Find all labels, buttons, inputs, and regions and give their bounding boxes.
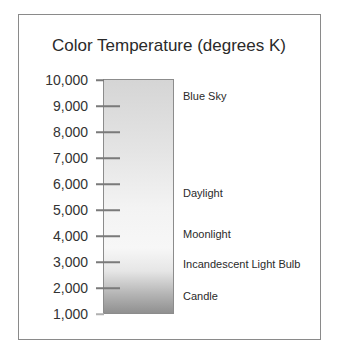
tick-mark-4000 xyxy=(96,235,120,237)
tick-mark-5000 xyxy=(96,209,120,211)
tick-mark-10000 xyxy=(96,79,104,81)
label-daylight: Daylight xyxy=(183,187,223,199)
tick-label-1000: 1,000 xyxy=(28,306,88,322)
chart-title: Color Temperature (degrees K) xyxy=(0,36,338,56)
tick-label-2000: 2,000 xyxy=(28,280,88,296)
tick-label-8000: 8,000 xyxy=(28,124,88,140)
tick-label-10000: 10,000 xyxy=(28,72,88,88)
label-moonlight: Moonlight xyxy=(183,228,231,240)
tick-label-6000: 6,000 xyxy=(28,176,88,192)
tick-label-5000: 5,000 xyxy=(28,202,88,218)
tick-mark-9000 xyxy=(96,105,120,107)
label-incandescent-light-bulb: Incandescent Light Bulb xyxy=(183,258,300,270)
tick-mark-6000 xyxy=(96,183,120,185)
tick-mark-1000 xyxy=(96,313,104,315)
tick-label-9000: 9,000 xyxy=(28,98,88,114)
tick-label-4000: 4,000 xyxy=(28,228,88,244)
tick-mark-8000 xyxy=(96,131,120,133)
tick-mark-2000 xyxy=(96,287,120,289)
label-candle: Candle xyxy=(183,290,218,302)
label-blue-sky: Blue Sky xyxy=(183,90,226,102)
tick-mark-3000 xyxy=(96,261,120,263)
tick-mark-7000 xyxy=(96,157,120,159)
color-temperature-bar xyxy=(103,79,174,314)
tick-label-3000: 3,000 xyxy=(28,254,88,270)
tick-label-7000: 7,000 xyxy=(28,150,88,166)
